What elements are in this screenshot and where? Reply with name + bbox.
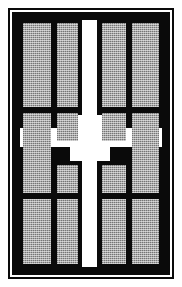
room-cell bbox=[132, 23, 159, 107]
room-cell bbox=[102, 113, 126, 141]
room-cell bbox=[132, 113, 159, 155]
floor-plan-figure bbox=[0, 0, 182, 287]
plan-interior bbox=[20, 20, 162, 267]
room-cell bbox=[132, 199, 159, 264]
room-cell bbox=[102, 199, 126, 264]
room-cell bbox=[23, 113, 51, 155]
room-cell bbox=[23, 23, 51, 107]
room-cell bbox=[57, 199, 78, 264]
room-cell bbox=[102, 165, 126, 193]
room-cell bbox=[102, 23, 126, 107]
room-cell bbox=[57, 165, 78, 193]
room-cell bbox=[23, 151, 51, 193]
room-cell bbox=[23, 199, 51, 264]
room-cell bbox=[132, 151, 159, 193]
room-cell bbox=[57, 23, 78, 107]
room-cell bbox=[57, 113, 78, 141]
